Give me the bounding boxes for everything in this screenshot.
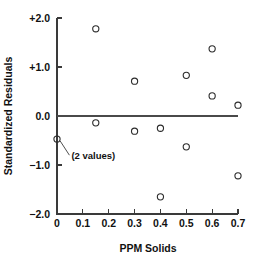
x-tick-label: 0.1 bbox=[76, 217, 91, 229]
data-point bbox=[131, 78, 137, 84]
x-tick-labels: 00.10.20.30.40.50.60.7 bbox=[54, 217, 245, 229]
x-axis-ticks bbox=[57, 209, 238, 214]
data-point bbox=[183, 144, 189, 150]
annotation-label: (2 values) bbox=[71, 150, 115, 161]
data-point bbox=[93, 26, 99, 32]
x-tick-label: 0.3 bbox=[127, 217, 142, 229]
x-tick-label: 0.2 bbox=[101, 217, 116, 229]
data-point bbox=[93, 120, 99, 126]
x-tick-label: 0.4 bbox=[153, 217, 168, 229]
data-point bbox=[209, 93, 215, 99]
data-point bbox=[235, 173, 241, 179]
data-point bbox=[183, 72, 189, 78]
x-tick-label: 0 bbox=[54, 217, 60, 229]
scatter-plot-figure: (2 values) −2.0−1.00.0+1.0+2.0 00.10.20.… bbox=[0, 0, 253, 262]
y-tick-label: 0.0 bbox=[35, 110, 50, 122]
x-axis-title: PPM Solids bbox=[119, 242, 176, 254]
data-point bbox=[157, 194, 163, 200]
plot-canvas: (2 values) −2.0−1.00.0+1.0+2.0 00.10.20.… bbox=[0, 0, 253, 262]
annotation-leader-line bbox=[60, 141, 69, 155]
x-tick-label: 0.6 bbox=[205, 217, 220, 229]
annotations-group: (2 values) bbox=[60, 141, 115, 161]
y-tick-label: −2.0 bbox=[29, 208, 50, 220]
y-tick-label: −1.0 bbox=[29, 159, 50, 171]
data-point bbox=[235, 102, 241, 108]
y-tick-labels: −2.0−1.00.0+1.0+2.0 bbox=[29, 12, 50, 220]
data-points-group bbox=[54, 26, 241, 200]
x-tick-label: 0.5 bbox=[179, 217, 194, 229]
y-axis-title: Standardized Residuals bbox=[2, 57, 14, 176]
data-point bbox=[131, 128, 137, 134]
y-tick-label: +1.0 bbox=[29, 61, 50, 73]
data-point bbox=[157, 125, 163, 131]
y-tick-label: +2.0 bbox=[29, 12, 50, 24]
data-point bbox=[209, 46, 215, 52]
x-tick-label: 0.7 bbox=[231, 217, 246, 229]
